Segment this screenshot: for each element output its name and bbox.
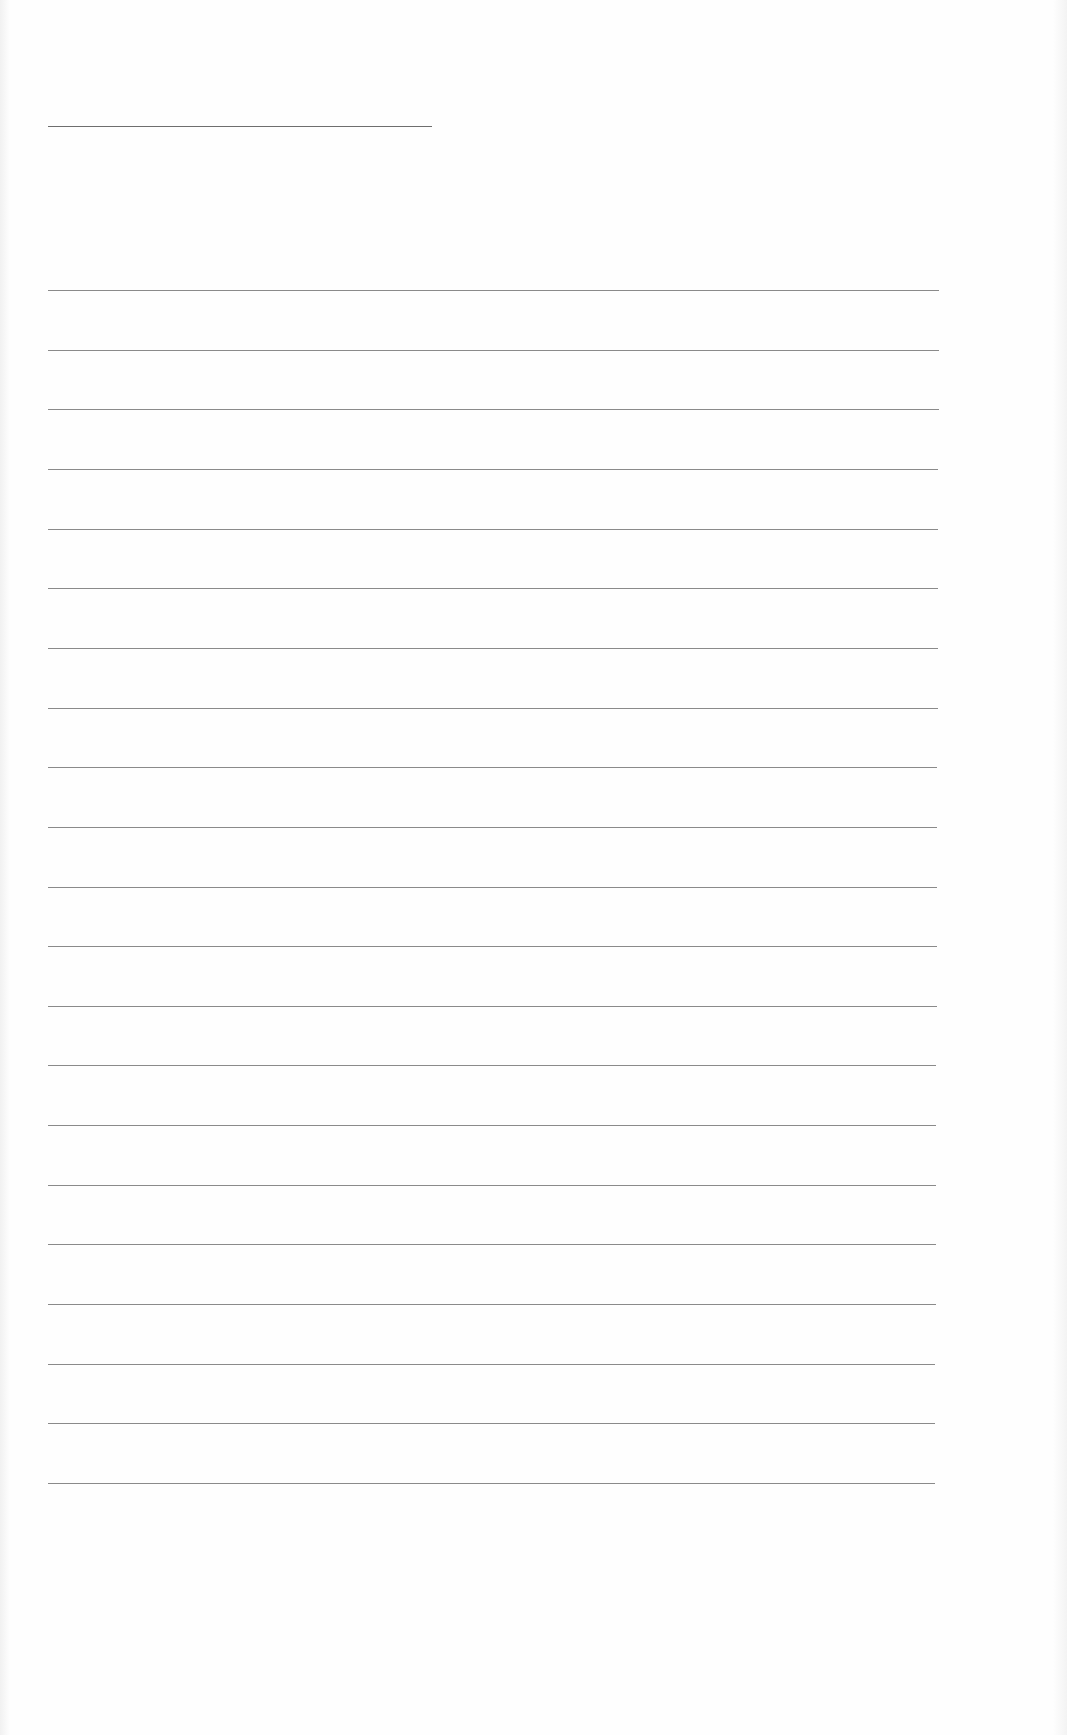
ruled-line bbox=[48, 1483, 935, 1484]
ruled-paper-page bbox=[0, 0, 1067, 1735]
ruled-line bbox=[48, 708, 938, 709]
page-right-shadow bbox=[1053, 0, 1067, 1735]
ruled-line bbox=[48, 350, 939, 351]
ruled-line bbox=[48, 827, 937, 828]
page-left-shadow bbox=[0, 0, 10, 1735]
ruled-line bbox=[48, 1125, 936, 1126]
ruled-line bbox=[48, 409, 939, 410]
ruled-line bbox=[48, 290, 939, 291]
ruled-line bbox=[48, 1423, 935, 1424]
ruled-line bbox=[48, 469, 938, 470]
ruled-line bbox=[48, 1006, 937, 1007]
ruled-line bbox=[48, 1364, 935, 1365]
ruled-line bbox=[48, 1065, 936, 1066]
ruled-line bbox=[48, 887, 937, 888]
header-line bbox=[48, 126, 432, 127]
ruled-line bbox=[48, 648, 938, 649]
ruled-line bbox=[48, 1185, 936, 1186]
ruled-line bbox=[48, 767, 937, 768]
ruled-line bbox=[48, 946, 937, 947]
ruled-line bbox=[48, 588, 938, 589]
ruled-line bbox=[48, 529, 938, 530]
ruled-line bbox=[48, 1304, 936, 1305]
ruled-line bbox=[48, 1244, 936, 1245]
